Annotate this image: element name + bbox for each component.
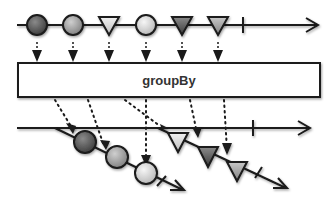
- arrow-down-icon: [68, 42, 78, 62]
- marble-circle-dark: [74, 131, 96, 153]
- group-circle-timeline: [55, 123, 184, 190]
- marble-circle-light: [135, 162, 157, 184]
- marble-circle-light: [136, 15, 156, 35]
- arrow-down-icon: [177, 42, 187, 62]
- operator-box: [18, 63, 320, 97]
- arrow-down-icon: [213, 42, 223, 62]
- marble-circle-medium: [63, 15, 83, 35]
- arrow-down-icon: [104, 42, 114, 62]
- marble-diagram: [0, 0, 333, 203]
- arrow-down-icon: [141, 42, 151, 62]
- marble-circle-medium: [106, 146, 128, 168]
- group-triangle-timeline: [158, 124, 287, 188]
- marble-triangle-light: [168, 133, 188, 152]
- input-arrows: [32, 42, 223, 62]
- arrow-down-icon: [32, 42, 42, 62]
- marble-circle-dark: [27, 15, 47, 35]
- marble-triangle-dark: [198, 147, 218, 167]
- marble-triangle-medium: [227, 162, 247, 181]
